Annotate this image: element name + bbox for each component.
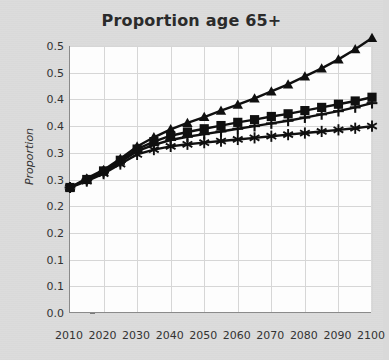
y-axis-tick-labels: 0.50.50.40.40.30.30.20.20.10.10.0 — [26, 0, 64, 360]
y-tick-label: 0.5 — [28, 68, 64, 79]
x-tick-label: 2100 — [351, 330, 389, 341]
y-tick-label: 0.4 — [28, 94, 64, 105]
y-tick-label: 0.5 — [28, 41, 64, 52]
data-point-triangle — [333, 54, 343, 63]
gridline-vertical — [372, 46, 373, 312]
data-point-triangle — [367, 33, 377, 42]
y-tick-label: 0.4 — [28, 121, 64, 132]
x-axis-tick-labels: 2010202020302040205020602070208020902100 — [69, 330, 371, 346]
y-tick-label: 0.2 — [28, 228, 64, 239]
y-tick-mark — [90, 313, 95, 314]
plot-area — [69, 46, 371, 313]
y-tick-label: 0.2 — [28, 201, 64, 212]
series-layer — [70, 46, 372, 313]
y-tick-label: 0.3 — [28, 148, 64, 159]
y-tick-label: 0.1 — [28, 255, 64, 266]
y-tick-label: 0.1 — [28, 281, 64, 292]
data-point-triangle — [316, 63, 326, 72]
y-tick-label: 0.3 — [28, 175, 64, 186]
y-tick-label: 0.0 — [28, 308, 64, 319]
